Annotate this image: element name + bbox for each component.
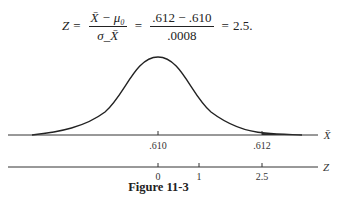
xbar-axis-label: X̄ xyxy=(323,129,332,141)
figure-caption: Figure 11-3 xyxy=(0,180,317,195)
z-axis-label: Z xyxy=(323,161,330,173)
normal-curve xyxy=(32,57,302,135)
xtick-label-610: .610 xyxy=(149,140,167,151)
xtick-label-612: .612 xyxy=(253,140,271,151)
normal-curve-figure: .610 .612 0 1 2.5 X̄ Z xyxy=(0,0,337,198)
